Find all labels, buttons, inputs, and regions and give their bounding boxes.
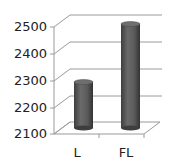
y-tick-label: 2200: [14, 100, 47, 115]
bar-L: [74, 80, 93, 131]
x-tick-label: L: [73, 145, 81, 160]
y-tick-label: 2300: [14, 73, 47, 88]
y-tick-label: 2400: [14, 46, 47, 61]
gridlines: [54, 15, 162, 134]
y-axis-labels: 2500 2400 2300 2200 2100: [14, 19, 47, 141]
y-tick-label: 2100: [14, 126, 47, 141]
bar-FL: [121, 22, 140, 131]
x-tick-label: FL: [119, 145, 134, 160]
x-axis-labels: L FL: [73, 145, 134, 160]
chart-floor: [54, 122, 160, 134]
y-tick-label: 2500: [14, 19, 47, 34]
bar-chart: 2500 2400 2300 2200 2100 L FL: [0, 0, 170, 167]
